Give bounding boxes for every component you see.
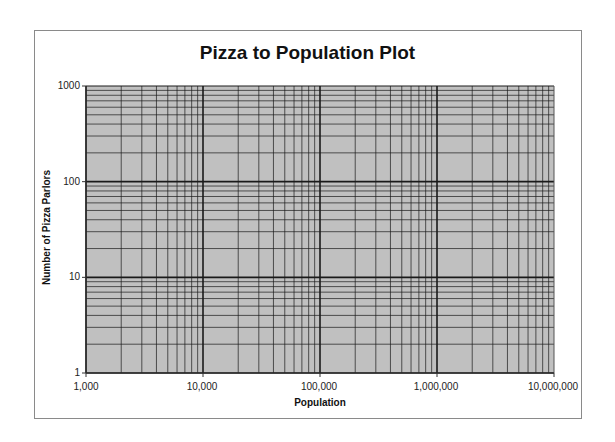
plot-area: [0, 0, 615, 442]
x-tick-1000000: 1,000,000: [396, 381, 476, 392]
x-tick-10000000: 10,000,000: [513, 381, 593, 392]
y-tick-1: 1: [40, 367, 80, 378]
y-tick-1000: 1000: [40, 80, 80, 91]
x-tick-1000: 1,000: [46, 381, 126, 392]
y-axis-label: Number of Pizza Parlors: [41, 148, 52, 308]
x-axis-label: Population: [220, 397, 420, 408]
x-tick-10000: 10,000: [162, 381, 242, 392]
x-tick-100000: 100,000: [279, 381, 359, 392]
